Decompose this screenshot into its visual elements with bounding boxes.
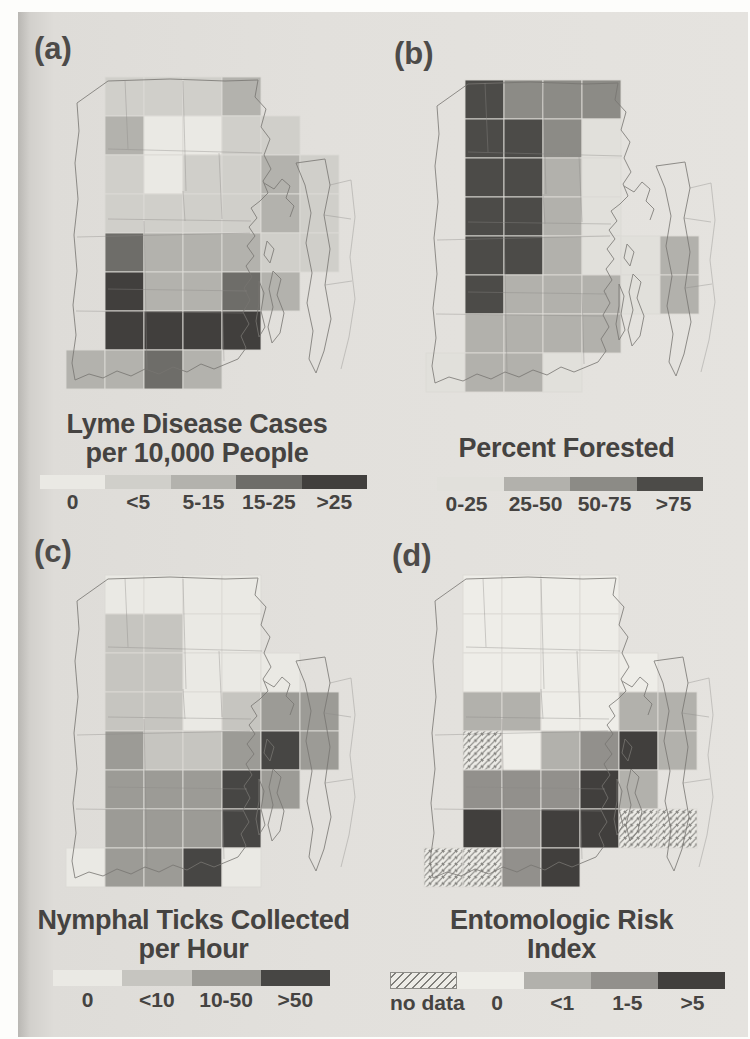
map-cell [580,731,619,770]
map-cell [183,809,222,848]
legend-swatch-c-0 [53,970,122,986]
map-cell [504,353,543,392]
legend-label: 0 [465,991,530,1014]
panel-a-map-svg [20,67,370,402]
panel-a-label: (a) [34,33,72,64]
map-cell [541,653,580,692]
panel-d-title-line1: Entomologic Risk [398,906,725,935]
legend-label: 5-15 [171,490,236,513]
map-cell [144,77,183,116]
map-cell [502,614,541,653]
map-cell [582,197,621,236]
map-cell [541,575,580,614]
map-cell [465,314,504,353]
panel-a-title: Lyme Disease Cases per 10,000 People [36,410,358,468]
map-cell [504,158,543,197]
map-cell [541,770,580,809]
map-cell [261,194,300,233]
map-cell [222,272,261,311]
map-cell [144,233,183,272]
legend-label: 1-5 [595,991,660,1014]
map-cell [105,194,144,233]
map-cell [105,311,144,350]
legend-label: 0 [53,988,122,1011]
panel-c-label: (c) [34,536,72,567]
map-cell [582,236,621,275]
map-cell [541,614,580,653]
map-cell [222,194,261,233]
map-cell [619,731,658,770]
map-cell [222,731,261,770]
legend-label: 0-25 [432,492,501,515]
map-cell [144,731,183,770]
map-cell [144,848,183,887]
panel-c-legend-bar [53,970,330,986]
map-cell [465,236,504,275]
legend-label: no data [390,991,465,1014]
panel-d-legend-labels: no data0<11-5>5 [390,991,725,1014]
map-cell [183,77,222,116]
panel-b-cells [426,80,699,392]
map-cell [660,236,699,275]
legend-swatch-a-4 [302,475,367,489]
map-cell [222,614,261,653]
map-cell [502,848,541,887]
map-cell [222,653,261,692]
map-cell [183,272,222,311]
map-cell [463,770,502,809]
map-cell [582,275,621,314]
map-cell [222,116,261,155]
legend-swatch-a-2 [171,475,236,489]
panel-c-cells [66,575,339,887]
map-cell [183,653,222,692]
map-cell [144,350,183,389]
map-cell [144,155,183,194]
map-cell [183,233,222,272]
panel-d-title: Entomologic Risk Index [398,906,725,964]
map-cell [183,614,222,653]
map-cell [183,194,222,233]
map-cell [541,809,580,848]
map-cell [580,692,619,731]
legend-label: >25 [302,490,367,513]
panel-a-cells [66,77,339,389]
map-cell [502,575,541,614]
map-cell [658,809,697,848]
legend-swatch-d-2 [524,972,591,989]
map-cell [183,311,222,350]
legend-label: <10 [122,988,191,1011]
map-cell [658,731,697,770]
legend-swatch-d-3 [591,972,658,989]
map-cell [424,848,463,887]
map-cell [183,770,222,809]
panel-b-title: Percent Forested [404,434,729,463]
map-cell [541,848,580,887]
map-cell [660,275,699,314]
map-cell [144,770,183,809]
map-cell [504,197,543,236]
map-cell [144,194,183,233]
legend-label: 25-50 [501,492,570,515]
map-cell [543,119,582,158]
map-cell [582,314,621,353]
panel-b-map [380,70,730,405]
map-cell [261,233,300,272]
map-cell [105,233,144,272]
legend-swatch-b-3 [637,477,704,491]
map-cell [222,692,261,731]
map-cell [465,353,504,392]
map-cell [222,155,261,194]
map-cell [463,731,502,770]
map-cell [543,80,582,119]
map-cell [465,158,504,197]
panel-d-legend-bar [390,972,725,989]
figure-scan: { "page": { "background_color": "#dedcd8… [0,0,750,1039]
panel-c-legend-labels: 0<1010-50>50 [53,988,330,1011]
map-cell [144,575,183,614]
map-cell [502,809,541,848]
map-cell [222,311,261,350]
panel-a-map [20,67,370,402]
map-cell [543,275,582,314]
map-cell [222,233,261,272]
map-cell [543,353,582,392]
